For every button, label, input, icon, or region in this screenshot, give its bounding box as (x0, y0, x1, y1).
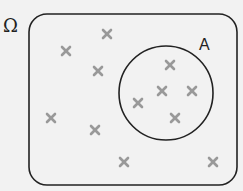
cross-marker-icon (171, 114, 179, 122)
set-a-label: A (199, 36, 210, 53)
cross-marker-icon (134, 99, 142, 107)
cross-marker-icon (94, 67, 102, 75)
cross-marker-icon (47, 114, 55, 122)
cross-marker-icon (188, 87, 196, 95)
cross-marker-icon (209, 158, 217, 166)
cross-marker-icon (120, 158, 128, 166)
venn-diagram: Ω A (0, 0, 243, 191)
sample-points (47, 30, 217, 166)
cross-marker-icon (103, 30, 111, 38)
cross-marker-icon (166, 61, 174, 69)
universe-label: Ω (3, 15, 18, 36)
cross-marker-icon (62, 47, 70, 55)
cross-marker-icon (158, 87, 166, 95)
cross-marker-icon (91, 126, 99, 134)
